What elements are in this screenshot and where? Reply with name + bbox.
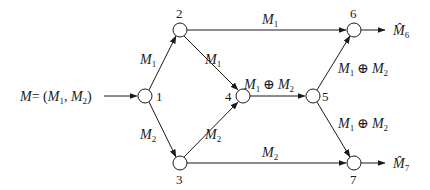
edge-1-3-label: M2	[139, 127, 156, 144]
node-2	[173, 23, 187, 37]
output-6-label: M̂6	[392, 23, 410, 40]
edge-5-7-label: M1⊕M2	[337, 116, 388, 133]
node-5	[306, 89, 320, 103]
node-3-label: 3	[176, 172, 183, 187]
node-1-label: 1	[156, 89, 163, 104]
edge-5-6-label: M1⊕M2	[337, 61, 388, 78]
node-7-label: 7	[350, 172, 357, 187]
edge-2-4-label: M1	[204, 52, 221, 69]
node-3	[173, 156, 187, 170]
node-5-label: 5	[322, 89, 329, 104]
edge-3-7-label: M2	[261, 145, 278, 162]
node-6-label: 6	[350, 6, 357, 21]
network-coding-diagram: 1 2 3 4 5 6 7 M= (M1, M2) M1 M2 M1 M2 M1…	[0, 0, 430, 190]
edge-4-5-label: M1⊕M2	[243, 77, 294, 94]
output-7-label: M̂7	[392, 156, 410, 173]
diagram-svg: 1 2 3 4 5 6 7 M= (M1, M2) M1 M2 M1 M2 M1…	[0, 0, 430, 190]
node-6	[347, 23, 361, 37]
node-2-label: 2	[176, 6, 183, 21]
edge-1-3	[149, 102, 176, 157]
node-7	[347, 156, 361, 170]
node-4-label: 4	[225, 89, 232, 104]
edge-3-4-label: M2	[204, 127, 221, 144]
edge-2-6-label: M1	[261, 12, 278, 29]
input-label: M= (M1, M2)	[19, 89, 92, 106]
edge-1-2-label: M1	[139, 52, 156, 69]
node-1	[138, 89, 152, 103]
